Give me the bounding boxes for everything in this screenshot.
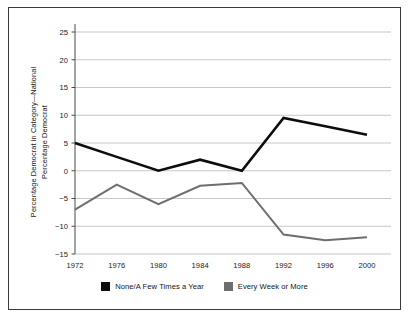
series-line bbox=[75, 118, 367, 171]
legend-item-none-a-few-times-a-year[interactable]: None/A Few Times a Year bbox=[101, 282, 204, 291]
x-tick-label: 1996 bbox=[317, 261, 334, 270]
chart-legend: None/A Few Times a Year Every Week or Mo… bbox=[9, 282, 400, 291]
x-axis-ticks: 19721976198019841988199219962000 bbox=[66, 261, 375, 270]
y-axis-ticks: −15−10−50510152025 bbox=[55, 28, 75, 259]
y-tick-label: 10 bbox=[59, 111, 68, 120]
legend-swatch-black bbox=[101, 282, 110, 291]
y-tick-label: 25 bbox=[59, 28, 68, 37]
x-tick-label: 1984 bbox=[192, 261, 209, 270]
y-tick-label: 15 bbox=[59, 83, 68, 92]
x-tick-label: 1976 bbox=[108, 261, 125, 270]
legend-label: Every Week or More bbox=[238, 282, 308, 291]
legend-label: None/A Few Times a Year bbox=[115, 282, 204, 291]
series-line bbox=[75, 183, 367, 240]
gridlines bbox=[75, 32, 391, 254]
legend-item-every-week-or-more[interactable]: Every Week or More bbox=[224, 282, 308, 291]
y-tick-label: 0 bbox=[64, 167, 68, 176]
y-tick-label: 5 bbox=[64, 139, 68, 148]
x-tick-label: 1972 bbox=[66, 261, 83, 270]
x-tick-label: 2000 bbox=[358, 261, 375, 270]
x-tick-label: 1992 bbox=[275, 261, 292, 270]
y-tick-label: 20 bbox=[59, 56, 68, 65]
legend-swatch-gray bbox=[224, 282, 233, 291]
y-tick-label: −5 bbox=[59, 194, 68, 203]
y-tick-label: −10 bbox=[55, 222, 68, 231]
x-tick-label: 1980 bbox=[150, 261, 167, 270]
y-tick-label: −15 bbox=[55, 250, 68, 259]
chart-figure: −15−10−50510152025 197219761980198419881… bbox=[8, 7, 401, 310]
line-chart: −15−10−50510152025 197219761980198419881… bbox=[9, 8, 400, 309]
x-tick-label: 1988 bbox=[233, 261, 250, 270]
series-lines bbox=[75, 118, 367, 240]
plot-shell: −15−10−50510152025 197219761980198419881… bbox=[9, 8, 400, 309]
